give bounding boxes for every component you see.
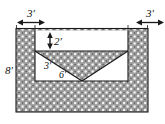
diagram-canvas: 3' 3' 8' 2' 3' 6': [0, 0, 165, 124]
upper-cut-depth-dimension: 2': [47, 32, 62, 50]
slope-rise-label: 3': [43, 60, 52, 71]
right-shoulder-dimension: 3': [128, 7, 164, 31]
left-shoulder-arrowhead-left: [17, 20, 23, 26]
total-depth-label: 8': [5, 64, 14, 76]
left-shoulder-label: 3': [26, 7, 36, 19]
slope-run-label: 6': [59, 69, 67, 80]
right-shoulder-label: 3': [145, 7, 155, 19]
right-shoulder-arrowhead-right: [158, 20, 164, 26]
left-shoulder-arrowhead-right: [39, 20, 45, 26]
left-shoulder-dimension: 3': [17, 7, 46, 31]
upper-cut-depth-label: 2': [54, 35, 63, 47]
right-shoulder-arrowhead-left: [136, 20, 142, 26]
excavation-cross-section-diagram: 3' 3' 8' 2' 3' 6': [0, 0, 165, 124]
